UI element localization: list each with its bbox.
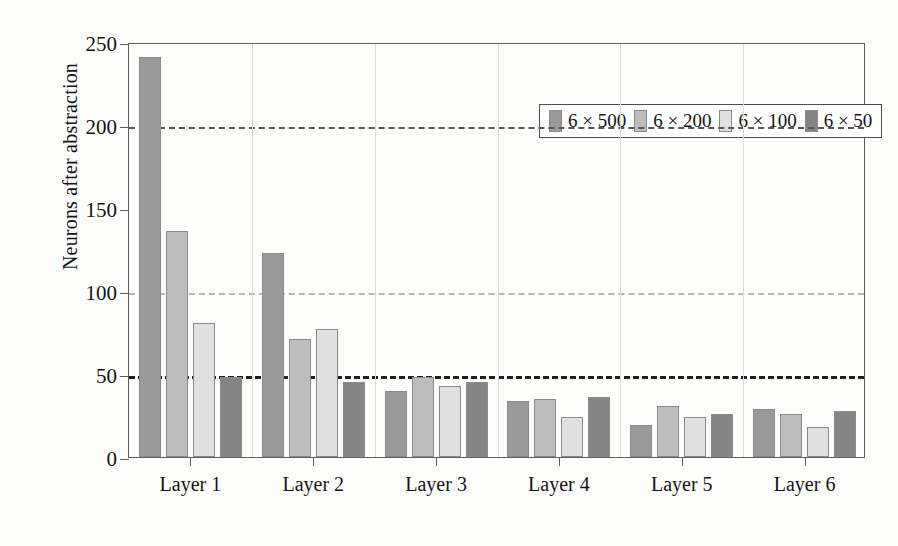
bar [193,323,215,457]
y-tick-label: 200 [86,115,118,140]
y-tick-label: 250 [86,32,118,57]
y-tick-label: 150 [86,198,118,223]
bar [439,386,461,457]
plot-area: 6 × 5006 × 2006 × 1006 × 50 050100150200… [128,43,865,458]
bar [588,397,610,457]
bar [289,339,311,457]
bar [807,427,829,457]
y-axis-title: Neurons after abstraction [59,0,82,347]
bar [711,414,733,457]
bar [139,57,161,457]
bar [262,253,284,457]
bar [534,399,556,457]
bar [385,391,407,457]
y-tick-mark [120,459,129,460]
x-axis-label-1: Layer 1 [160,473,222,496]
bar [316,329,338,457]
x-tick-mark-3 [436,457,437,466]
bar [834,411,856,457]
y-tick-label: 0 [107,447,118,472]
bar-chart-figure: Neurons after abstraction 6 × 5006 × 200… [0,0,898,546]
bar [684,417,706,457]
gridline-y-200 [129,127,864,129]
bar [780,414,802,457]
group-separator-1 [252,44,253,457]
bar [507,401,529,457]
x-axis-label-6: Layer 6 [774,473,836,496]
bar [412,377,434,457]
y-tick-mark [120,44,129,45]
y-tick-label: 100 [86,281,118,306]
bar [466,382,488,457]
bar [753,409,775,457]
y-tick-mark [120,210,129,211]
bar [343,382,365,457]
group-separator-3 [498,44,499,457]
group-separator-5 [743,44,744,457]
x-axis-label-3: Layer 3 [405,473,467,496]
x-tick-mark-2 [313,457,314,466]
group-separator-4 [620,44,621,457]
bar [166,231,188,457]
x-tick-mark-6 [805,457,806,466]
x-axis-label-5: Layer 5 [651,473,713,496]
bar [561,417,583,457]
x-axis-label-4: Layer 4 [528,473,590,496]
group-separator-2 [375,44,376,457]
x-axis-label-2: Layer 2 [282,473,344,496]
x-tick-mark-5 [682,457,683,466]
x-tick-mark-4 [559,457,560,466]
x-tick-mark-1 [190,457,191,466]
bar [220,377,242,457]
bar [657,406,679,457]
y-tick-mark [120,127,129,128]
y-tick-label: 50 [96,364,117,389]
y-tick-mark [120,293,129,294]
bar [630,425,652,457]
gridline-y-100 [129,293,864,295]
chart-legend: 6 × 5006 × 2006 × 1006 × 50 [539,104,882,138]
y-tick-mark [120,376,129,377]
